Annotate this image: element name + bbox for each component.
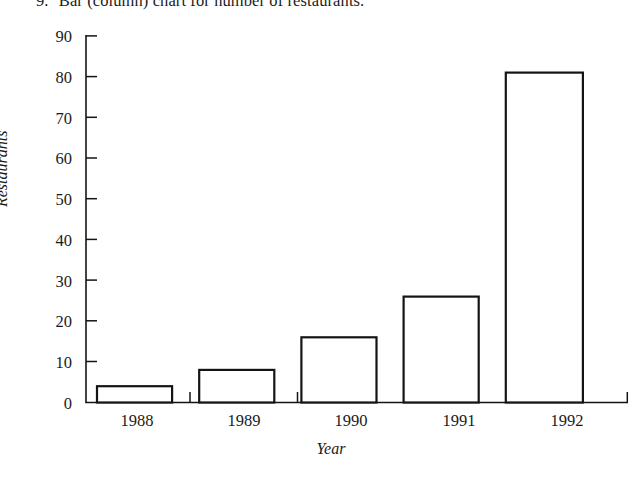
bar-1990 [301, 337, 376, 402]
bar-chart-figure: Restaurants Year 90 80 70 60 50 40 30 20… [0, 0, 644, 487]
bar-1989 [199, 370, 274, 403]
bar-1988 [97, 386, 172, 402]
chart-plot-area [0, 0, 644, 487]
bar-series [97, 73, 583, 403]
y-axis-ticks [86, 36, 97, 362]
bar-1991 [404, 297, 479, 403]
bar-1992 [506, 73, 583, 403]
